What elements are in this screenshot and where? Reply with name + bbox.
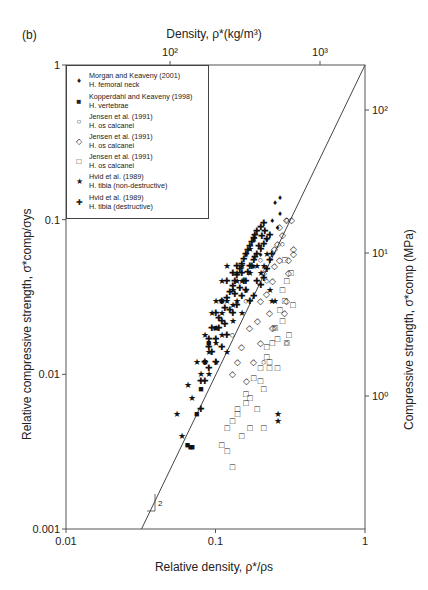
svg-text:✚: ✚ (226, 305, 234, 315)
svg-text:□: □ (282, 296, 288, 306)
open-square-icon: □ (73, 157, 85, 166)
svg-text:◇: ◇ (266, 308, 273, 318)
svg-text:2: 2 (158, 499, 163, 508)
svg-text:0.01: 0.01 (55, 535, 76, 547)
svg-text:1: 1 (362, 535, 368, 547)
svg-text:□: □ (258, 363, 264, 373)
svg-text:✚: ✚ (197, 376, 205, 386)
svg-text:10³: 10³ (312, 46, 328, 58)
svg-text:□: □ (275, 363, 281, 373)
svg-text:★: ★ (184, 380, 192, 390)
svg-text:✚: ✚ (261, 226, 269, 236)
svg-text:□: □ (280, 285, 286, 295)
svg-text:□: □ (270, 338, 276, 348)
svg-text:□: □ (277, 305, 283, 315)
svg-text:★: ★ (229, 316, 237, 326)
svg-text:10¹: 10¹ (372, 247, 388, 259)
svg-text:★: ★ (188, 393, 196, 403)
svg-text:□: □ (288, 268, 294, 278)
svg-text:□: □ (254, 404, 260, 414)
svg-text:♦: ♦ (278, 193, 282, 202)
svg-text:✚: ✚ (250, 291, 258, 301)
open-circle-icon: ○ (73, 117, 85, 126)
svg-text:✚: ✚ (201, 357, 209, 367)
cross-icon: ✚ (73, 198, 85, 207)
svg-text:□: □ (230, 462, 236, 472)
svg-text:✚: ✚ (260, 273, 268, 283)
svg-text:★: ★ (274, 409, 282, 419)
svg-text:◇: ◇ (257, 296, 264, 306)
svg-text:1: 1 (54, 59, 60, 71)
svg-text:□: □ (284, 338, 290, 348)
svg-text:10²: 10² (162, 46, 178, 58)
svg-text:◇: ◇ (290, 244, 297, 254)
svg-text:✚: ✚ (268, 249, 276, 259)
svg-text:★: ★ (173, 409, 181, 419)
svg-text:□: □ (267, 363, 273, 373)
svg-text:✚: ✚ (218, 296, 226, 306)
svg-text:★: ★ (178, 431, 186, 441)
svg-text:✚: ✚ (255, 241, 263, 251)
svg-text:◇: ◇ (234, 357, 241, 367)
svg-text:✚: ✚ (208, 323, 216, 333)
svg-text:✚: ✚ (248, 261, 256, 271)
svg-text:□: □ (290, 300, 296, 310)
svg-text:◇: ◇ (238, 342, 245, 352)
svg-text:10⁰: 10⁰ (372, 390, 389, 402)
svg-text:□: □ (243, 398, 249, 408)
y-axis-title: Relative compressive strength, σ*comp/σy… (20, 208, 34, 440)
svg-text:★: ★ (193, 357, 201, 367)
svg-text:□: □ (282, 255, 288, 265)
svg-text:✚: ✚ (251, 252, 259, 262)
svg-text:□: □ (225, 446, 231, 456)
svg-text:□: □ (239, 431, 245, 441)
svg-text:□: □ (247, 423, 253, 433)
svg-text:10²: 10² (372, 104, 388, 116)
x-axis-title: Relative density, ρ*/ρs (0, 560, 428, 574)
svg-text:✚: ✚ (212, 357, 220, 367)
svg-text:0.001: 0.001 (32, 523, 60, 535)
svg-text:■: ■ (190, 442, 195, 452)
svg-text:□: □ (219, 440, 225, 450)
svg-text:✚: ✚ (240, 276, 248, 286)
svg-text:□: □ (280, 316, 286, 326)
right-axis-title: Compressive strength, σ*comp (MPa) (402, 229, 416, 430)
svg-text:0.1: 0.1 (208, 535, 223, 547)
svg-text:◇: ◇ (229, 369, 236, 379)
svg-text:♦: ♦ (278, 209, 282, 218)
svg-text:□: □ (264, 342, 270, 352)
svg-text:□: □ (251, 373, 257, 383)
svg-text:◇: ◇ (246, 323, 253, 333)
svg-text:✚: ✚ (221, 319, 229, 329)
svg-text:✚: ✚ (223, 330, 231, 340)
svg-text:□: □ (272, 323, 278, 333)
svg-text:✚: ✚ (233, 300, 241, 310)
filled-square-icon: ■ (73, 97, 85, 106)
svg-text:♦: ♦ (273, 198, 277, 207)
svg-text:□: □ (225, 423, 231, 433)
svg-text:✚: ✚ (197, 404, 205, 414)
open-diamond-icon: ◇ (73, 137, 85, 146)
svg-text:□: □ (261, 423, 267, 433)
svg-text:✚: ✚ (205, 342, 213, 352)
svg-text:□: □ (261, 384, 267, 394)
svg-text:✚: ✚ (263, 264, 271, 274)
svg-text:◇: ◇ (257, 338, 264, 348)
svg-text:0.1: 0.1 (45, 214, 60, 226)
svg-text:◇: ◇ (243, 376, 250, 386)
svg-text:★: ★ (266, 285, 274, 295)
svg-text:★: ★ (271, 296, 279, 306)
svg-text:□: □ (235, 409, 241, 419)
svg-text:♦: ♦ (270, 216, 274, 225)
chart-plot: 0.010.1110.10.010.00110²10³10²10¹10⁰ 2 ♦… (0, 0, 428, 590)
svg-text:0.01: 0.01 (39, 368, 60, 380)
svg-text:◇: ◇ (254, 316, 261, 326)
svg-text:✚: ✚ (218, 342, 226, 352)
small-diamond-icon: ♦ (73, 76, 85, 85)
svg-text:□: □ (275, 334, 281, 344)
data-points: ♦♦♦♦♦♦♦♦■■■■■■■■■○○○○○○○○○◇◇◇◇◇◇◇◇◇◇◇◇◇◇… (173, 193, 297, 472)
star-icon: ★ (73, 177, 85, 186)
svg-text:◇: ◇ (288, 215, 295, 225)
svg-text:◇: ◇ (276, 222, 283, 232)
legend: ♦Morgan and Keaveny (2001)H. femoral nec… (66, 65, 209, 219)
